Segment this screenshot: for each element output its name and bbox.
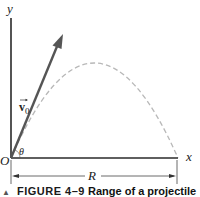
y-axis-label: y xyxy=(7,2,13,15)
origin-label: O xyxy=(0,154,9,167)
range-arrow-right-icon xyxy=(169,174,176,178)
range-arrow-left-icon xyxy=(12,174,19,178)
caption-triangle-icon: ▲ xyxy=(2,188,10,197)
diagram-canvas xyxy=(0,0,200,197)
figure-number: FIGURE 4–9 xyxy=(17,185,85,197)
velocity-arrowhead-icon xyxy=(53,34,64,49)
velocity-subscript: 0 xyxy=(25,106,30,116)
trajectory-curve xyxy=(11,63,178,158)
figure-caption: ▲ FIGURE 4–9 Range of a projectile xyxy=(2,186,200,197)
range-label: R xyxy=(88,169,96,182)
x-axis-label: x xyxy=(186,150,192,163)
angle-label: θ xyxy=(19,147,24,157)
projectile-range-figure: y x O θ R v0 ▲ FIGURE 4–9 Range of a pro… xyxy=(0,0,200,197)
velocity-label: v0 xyxy=(19,101,30,116)
figure-title: Range of a projectile xyxy=(88,185,196,197)
